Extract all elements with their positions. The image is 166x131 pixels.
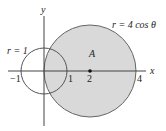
x-axis-label: x [149,65,155,76]
large-circle-label: r = 4 cos θ [112,19,156,30]
tick-one: 1 [68,73,73,84]
small-circle-label: r = 1 [7,45,28,56]
region-a-label: A [88,48,96,59]
y-axis-label: y [40,4,46,15]
tick-four: 4 [137,73,142,84]
polar-diagram: x y −1 1 2 4 r = 1 r = 4 cos θ A [0,0,166,131]
tick-two: 2 [87,73,92,84]
tick-neg-one: −1 [10,73,21,84]
